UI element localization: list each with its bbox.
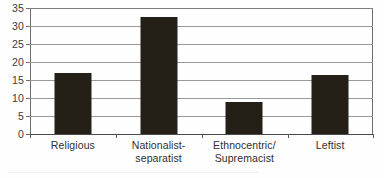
y-axis-label-5: 5 <box>2 111 24 122</box>
y-axis-labels: 35 30 25 20 15 10 5 0 <box>0 0 24 178</box>
bar-slot-ethnocentric-supremacist <box>202 8 288 134</box>
x-axis-label-ethnocentric-supremacist-line1: Ethnocentric/ <box>202 139 288 152</box>
x-axis-label-religious-line1: Religious <box>30 139 116 152</box>
x-axis-label-nationalist-separatist: Nationalist- separatist <box>116 139 202 164</box>
y-axis-label-35: 35 <box>2 3 24 14</box>
y-axis-label-15: 15 <box>2 75 24 86</box>
x-axis-label-leftist-line1: Leftist <box>287 139 373 152</box>
x-axis-label-leftist: Leftist <box>287 139 373 152</box>
bars-layer <box>30 8 373 134</box>
bar-slot-nationalist-separatist <box>116 8 202 134</box>
x-axis-tick-0 <box>30 134 31 138</box>
bar-chart-figure: 35 30 25 20 15 10 5 0 <box>0 0 384 178</box>
y-axis-label-10: 10 <box>2 93 24 104</box>
x-axis-label-nationalist-separatist-line1: Nationalist- <box>116 139 202 152</box>
x-axis-label-religious: Religious <box>30 139 116 152</box>
bar-ethnocentric-supremacist <box>226 102 263 134</box>
bar-leftist <box>312 75 349 134</box>
x-axis-label-ethnocentric-supremacist-line2: Supremacist <box>202 152 288 165</box>
y-axis-label-20: 20 <box>2 57 24 68</box>
y-axis-label-30: 30 <box>2 21 24 32</box>
x-axis-labels: Religious Nationalist- separatist Ethnoc… <box>30 139 373 175</box>
x-axis-label-nationalist-separatist-line2: separatist <box>116 152 202 165</box>
x-axis-tick-2 <box>202 134 203 138</box>
scan-artifact-line <box>8 172 258 173</box>
y-axis-label-0: 0 <box>2 129 24 140</box>
bar-religious <box>54 73 91 134</box>
bar-slot-religious <box>30 8 116 134</box>
x-axis-tick-3 <box>288 134 289 138</box>
plot-area <box>30 8 373 134</box>
x-axis-label-ethnocentric-supremacist: Ethnocentric/ Supremacist <box>202 139 288 164</box>
y-axis-label-25: 25 <box>2 39 24 50</box>
x-axis-tick-4 <box>373 134 374 138</box>
bar-nationalist-separatist <box>140 17 177 134</box>
x-axis-tick-1 <box>116 134 117 138</box>
bar-slot-leftist <box>287 8 373 134</box>
